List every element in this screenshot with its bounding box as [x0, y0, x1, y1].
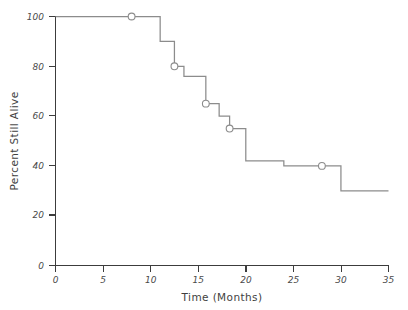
x-tick-label-35: 35	[383, 275, 395, 285]
y-tick-label-60: 60	[33, 111, 45, 121]
y-tick-label-0: 0	[38, 261, 44, 271]
survival-step-curve	[56, 17, 389, 191]
y-axis-title: Percent Still Alive	[8, 91, 20, 190]
x-tick-label-30: 30	[335, 275, 347, 285]
y-tick-label-100: 100	[27, 12, 44, 22]
survival-chart: 100 80 60 40 20 0 0 5 10 15 20	[0, 0, 408, 310]
y-tick-label-80: 80	[33, 62, 45, 72]
censored-marker	[226, 125, 233, 132]
x-tick-label-25: 25	[288, 275, 300, 285]
censored-marker	[202, 100, 209, 107]
censored-marker	[171, 63, 178, 70]
x-tick-label-15: 15	[193, 275, 205, 285]
km-plot-svg: 100 80 60 40 20 0 0 5 10 15 20	[0, 0, 408, 310]
x-tick-label-5: 5	[100, 275, 106, 285]
x-tick-label-20: 20	[240, 275, 252, 285]
y-tick-label-40: 40	[33, 161, 45, 171]
censored-markers-group	[128, 13, 325, 169]
y-tick-label-20: 20	[33, 210, 45, 220]
x-tick-label-10: 10	[145, 275, 157, 285]
x-tick-label-0: 0	[53, 275, 59, 285]
x-axis-title: Time (Months)	[181, 291, 263, 303]
y-axis-ticks: 100 80 60 40 20 0	[27, 12, 56, 271]
x-axis-ticks: 0 5 10 15 20 25 30 35	[53, 266, 395, 286]
censored-marker	[128, 13, 135, 20]
censored-marker	[319, 163, 326, 170]
